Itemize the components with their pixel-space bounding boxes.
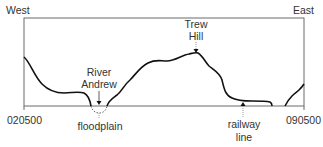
- terrain-profile-central: [107, 53, 272, 106]
- railway-label-line2: line: [236, 131, 252, 143]
- river-channel-dashed: [91, 106, 107, 113]
- cross-section-diagram: [0, 0, 323, 147]
- river-label-line2: Andrew: [81, 78, 117, 90]
- terrain-profile-east: [285, 84, 304, 106]
- hill-label-line1: Trew: [185, 18, 208, 30]
- river-label-line1: River: [87, 66, 112, 78]
- east-label: East: [293, 4, 314, 16]
- west-label: West: [6, 4, 30, 16]
- floodplain-label: floodplain: [78, 120, 123, 132]
- grid-ref-end: 090500: [286, 114, 321, 126]
- river-arrow-head: [97, 101, 102, 105]
- railway-label-line1: railway: [228, 118, 261, 130]
- hill-label-line2: Hill: [189, 30, 204, 42]
- railway-arrow-head: [241, 102, 246, 106]
- grid-ref-start: 020500: [7, 114, 42, 126]
